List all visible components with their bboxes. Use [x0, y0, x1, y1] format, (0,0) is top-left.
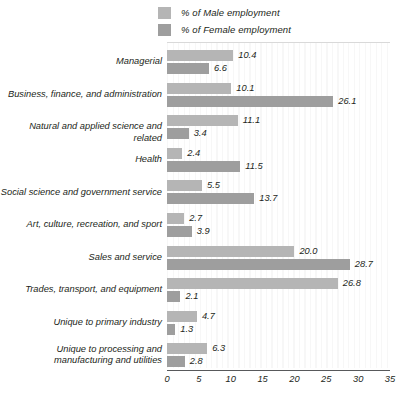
legend-item-male: % of Male employment	[158, 5, 388, 20]
x-tick-label: 25	[321, 374, 331, 384]
bar-value-label: 10.4	[238, 49, 256, 61]
bar-female	[167, 96, 333, 107]
bar-male	[167, 115, 238, 126]
x-axis-tick-labels: 05101520253035	[0, 374, 397, 390]
bar-value-label: 6.3	[212, 342, 225, 354]
bar-value-label: 3.4	[194, 127, 207, 139]
bar-value-label: 28.7	[355, 258, 373, 270]
bar-male	[167, 246, 294, 257]
legend-label-female: % of Female employment	[181, 24, 291, 35]
bar-value-label: 11.1	[243, 114, 260, 126]
bar-value-label: 2.8	[190, 355, 203, 367]
bar-male	[167, 148, 182, 159]
bar-value-label: 10.1	[236, 82, 254, 94]
bar-value-label: 20.0	[299, 245, 317, 257]
category-label: Sales and service	[0, 252, 162, 264]
bar-female	[167, 193, 254, 204]
bar-male	[167, 343, 207, 354]
category-label: Managerial	[0, 56, 162, 68]
chart-row: Natural and applied science and related1…	[0, 107, 397, 140]
chart-legend: % of Male employment % of Female employm…	[158, 5, 388, 39]
bar-value-label: 26.1	[338, 95, 356, 107]
bar-value-label: 3.9	[197, 225, 210, 237]
chart-row: Managerial10.46.6	[0, 42, 397, 75]
bar-value-label: 4.7	[202, 310, 215, 322]
bar-male	[167, 213, 184, 224]
x-tick-label: 35	[385, 374, 395, 384]
x-tick-label: 15	[257, 374, 267, 384]
bar-value-label: 2.7	[189, 212, 202, 224]
category-label: Social science and government service	[0, 187, 162, 199]
plot: Managerial10.46.6Business, finance, and …	[0, 42, 397, 370]
chart-row: Business, finance, and administration10.…	[0, 75, 397, 108]
x-tick-label: 20	[289, 374, 299, 384]
bar-female	[167, 324, 175, 335]
bar-female	[167, 356, 185, 367]
bar-female	[167, 128, 189, 139]
category-label: Art, culture, recreation, and sport	[0, 219, 162, 231]
bar-male	[167, 83, 231, 94]
legend-swatch-female-icon	[158, 24, 171, 36]
x-axis-line	[167, 370, 390, 371]
chart-row: Art, culture, recreation, and sport2.73.…	[0, 205, 397, 238]
category-label: Unique to processing and manufacturing a…	[0, 344, 162, 367]
chart-row: Unique to processing and manufacturing a…	[0, 335, 397, 368]
bar-value-label: 26.8	[343, 277, 361, 289]
chart-row: Health2.411.5	[0, 140, 397, 173]
category-label: Trades, transport, and equipment	[0, 284, 162, 296]
bar-value-label: 13.7	[259, 192, 277, 204]
bar-female	[167, 63, 209, 74]
x-tick-label: 10	[226, 374, 236, 384]
x-tick-label: 5	[196, 374, 201, 384]
bar-female	[167, 291, 180, 302]
chart-row: Social science and government service5.5…	[0, 172, 397, 205]
bar-value-label: 2.4	[187, 147, 200, 159]
legend-swatch-male-icon	[158, 7, 171, 19]
category-label: Business, finance, and administration	[0, 89, 162, 101]
bar-male	[167, 311, 197, 322]
chart-row: Trades, transport, and equipment26.82.1	[0, 270, 397, 303]
bar-male	[167, 278, 338, 289]
legend-item-female: % of Female employment	[158, 22, 388, 37]
category-label: Unique to primary industry	[0, 317, 162, 329]
bar-value-label: 6.6	[214, 62, 227, 74]
bar-female	[167, 226, 192, 237]
category-label: Health	[0, 154, 162, 166]
chart-rows: Managerial10.46.6Business, finance, and …	[0, 42, 397, 368]
bar-value-label: 5.5	[207, 179, 220, 191]
bar-female	[167, 259, 350, 270]
bar-value-label: 1.3	[180, 323, 193, 335]
x-tick-label: 0	[164, 374, 169, 384]
bar-chart: % of Male employment % of Female employm…	[0, 0, 397, 394]
chart-row: Sales and service20.028.7	[0, 238, 397, 271]
bar-male	[167, 180, 202, 191]
bar-value-label: 11.5	[245, 160, 262, 172]
bar-male	[167, 50, 233, 61]
legend-label-male: % of Male employment	[181, 7, 280, 18]
bar-value-label: 2.1	[185, 290, 198, 302]
bar-female	[167, 161, 240, 172]
x-tick-label: 30	[353, 374, 363, 384]
chart-row: Unique to primary industry4.71.3	[0, 303, 397, 336]
